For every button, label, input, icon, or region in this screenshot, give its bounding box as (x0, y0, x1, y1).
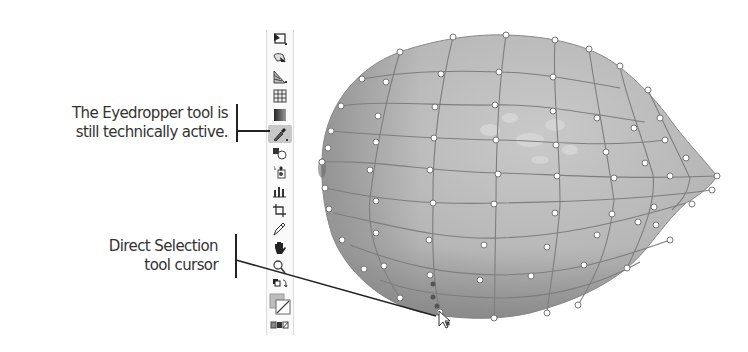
zoom-icon (271, 259, 289, 275)
perspective-grid-tool[interactable] (268, 68, 292, 86)
swap-fill-stroke[interactable] (268, 276, 292, 290)
canvas-artwork[interactable] (0, 0, 748, 352)
fill-stroke-swatch[interactable] (268, 292, 292, 316)
color-mode-buttons[interactable] (268, 318, 292, 332)
callout-eyedropper-line1: The Eyedropper tool is (14, 104, 228, 123)
callout-direct-selection: Direct Selection tool cursor (14, 237, 218, 275)
slice-tool[interactable] (268, 49, 292, 67)
hand-tool[interactable] (268, 239, 292, 257)
column-graph-tool[interactable] (268, 182, 292, 200)
fill-stroke-icon (269, 293, 291, 315)
slice-icon (271, 50, 289, 66)
symbol-sprayer-icon (271, 164, 289, 180)
swap-icon (271, 275, 289, 291)
tools-panel (266, 30, 294, 335)
color-mode-icon (270, 320, 290, 330)
blend-tool[interactable] (268, 144, 292, 162)
crop-icon (271, 202, 289, 218)
zoom-tool[interactable] (268, 258, 292, 276)
callout-eyedropper: The Eyedropper tool is still technically… (14, 104, 228, 142)
eyedropper-tool[interactable] (268, 125, 292, 143)
gradient-icon (271, 107, 289, 123)
artboard-icon (271, 31, 289, 47)
callout-direct-selection-line2: tool cursor (14, 256, 218, 275)
callout-eyedropper-line2: still technically active. (14, 123, 228, 142)
hand-icon (271, 240, 289, 256)
artboard-tool[interactable] (268, 30, 292, 48)
pencil-icon (271, 221, 289, 237)
callout-eyedropper-bracket (236, 104, 238, 142)
crop-tool[interactable] (268, 201, 292, 219)
eyedropper-icon (271, 126, 289, 142)
pencil-tool[interactable] (268, 220, 292, 238)
callout-direct-selection-line1: Direct Selection (14, 237, 218, 256)
symbol-sprayer-tool[interactable] (268, 163, 292, 181)
blend-icon (271, 145, 289, 161)
perspective-grid-icon (271, 69, 289, 85)
callout-eyedropper-leader (236, 130, 270, 132)
column-graph-icon (271, 183, 289, 199)
callout-direct-selection-bracket (235, 234, 237, 278)
lemon-mesh-object[interactable] (318, 32, 720, 321)
gradient-tool[interactable] (268, 106, 292, 124)
mesh-icon (271, 88, 289, 104)
mesh-tool[interactable] (268, 87, 292, 105)
